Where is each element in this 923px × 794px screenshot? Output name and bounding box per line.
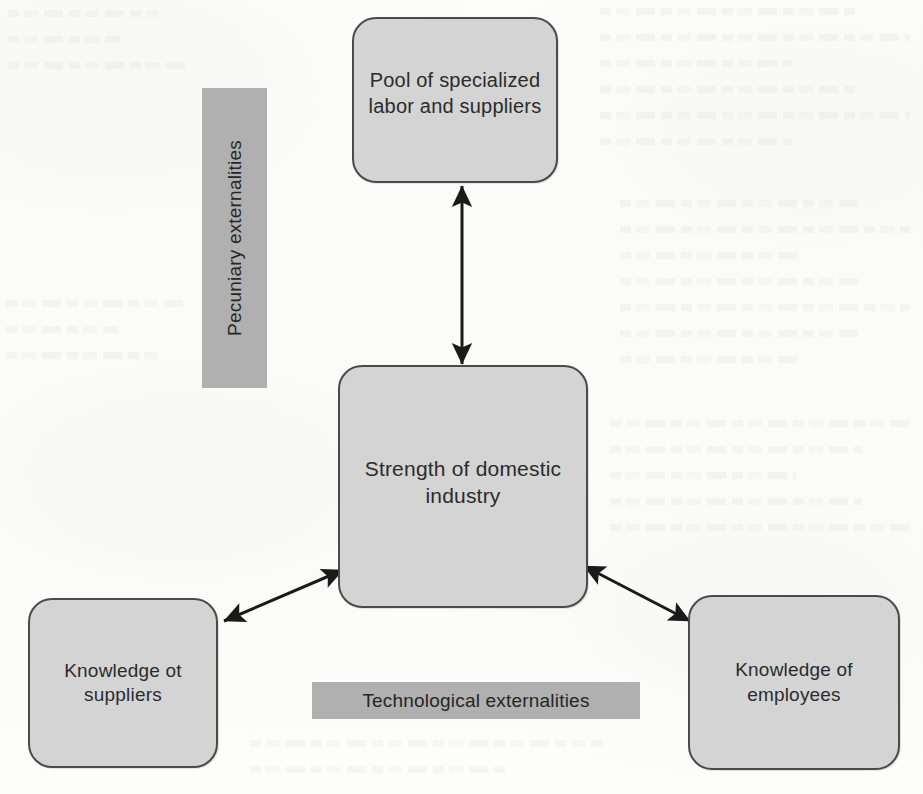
ghost-text-block-left [6, 300, 186, 378]
node-pool-of-specialized-labor-and-suppliers[interactable]: Pool of specialized labor and suppliers [352, 17, 558, 183]
node-top-label: Pool of specialized labor and suppliers [357, 68, 554, 119]
connector-center-to-bottom-right [584, 566, 690, 621]
ghost-text-block-top-right [600, 8, 910, 164]
band-pecuniary-label: Pecuniary externalities [224, 140, 246, 336]
node-knowledge-of-employees[interactable]: Knowledge of employees [688, 595, 900, 770]
ghost-text-block-mid-right [620, 200, 910, 382]
node-strength-of-domestic-industry[interactable]: Strength of domestic industry [338, 365, 588, 608]
node-knowledge-of-suppliers[interactable]: Knowledge ot suppliers [28, 598, 218, 768]
band-technological-externalities: Technological externalities [312, 682, 640, 719]
band-pecuniary-externalities: Pecuniary externalities [202, 88, 267, 388]
band-technological-label: Technological externalities [362, 690, 589, 712]
connector-center-to-bottom-left [224, 570, 343, 621]
node-center-label: Strength of domestic industry [353, 456, 574, 510]
ghost-text-block-lower-right [610, 420, 910, 550]
node-bottom-left-label: Knowledge ot suppliers [52, 659, 194, 708]
diagram-canvas: Pecuniary externalities Technological ex… [0, 0, 923, 794]
ghost-text-block-bottom [250, 740, 670, 792]
node-bottom-right-label: Knowledge of employees [723, 658, 865, 707]
ghost-text-block-top-left [8, 10, 188, 88]
